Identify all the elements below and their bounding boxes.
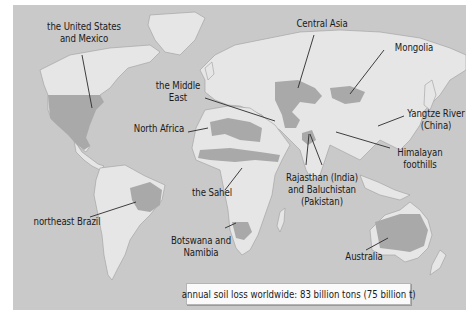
label-line: (China) (402, 119, 466, 131)
region-usa-mexico (48, 95, 104, 150)
label-line: Namibia (167, 246, 234, 258)
caption-box: annual soil loss worldwide: 83 billion t… (186, 283, 411, 305)
label-yangtze: Yangtze River (China) (402, 107, 466, 131)
label-line: Yangtze River (402, 107, 466, 119)
region-australia (375, 214, 428, 252)
label-line: and Mexico (45, 32, 124, 44)
label-line: North Africa (126, 122, 192, 134)
label-line: East (148, 91, 207, 103)
label-line: Mongolia (389, 41, 438, 53)
label-line: Australia (335, 250, 392, 262)
label-australia: Australia (335, 250, 392, 262)
label-line: northeast Brazil (28, 215, 107, 227)
greenland (148, 12, 205, 55)
label-line: Botswana and (167, 234, 234, 246)
label-line: the United States (45, 20, 124, 32)
label-middle-east: the Middle East (148, 79, 207, 103)
label-line: and Baluchistan (281, 183, 363, 195)
world-map: the United States and Mexico Central Asi… (13, 5, 466, 310)
label-line: Rajasthan (India) (281, 171, 363, 183)
label-ne-brazil: northeast Brazil (28, 215, 107, 227)
label-usa-mexico: the United States and Mexico (45, 20, 124, 44)
label-line: Himalayan (390, 146, 451, 158)
label-north-africa: North Africa (126, 122, 192, 134)
label-line: the Sahel (183, 186, 240, 198)
label-sahel: the Sahel (183, 186, 240, 198)
label-line: Central Asia (289, 17, 355, 29)
label-himalayan: Himalayan foothills (390, 146, 451, 170)
caption-text: annual soil loss worldwide: 83 billion t… (181, 288, 415, 300)
label-line: (Pakistan) (281, 195, 363, 207)
label-line: the Middle (148, 79, 207, 91)
label-rajasthan: Rajasthan (India) and Baluchistan (Pakis… (281, 171, 363, 207)
label-central-asia: Central Asia (289, 17, 355, 29)
label-botswana: Botswana and Namibia (167, 234, 234, 258)
madagascar (277, 208, 285, 232)
indonesia (360, 175, 410, 200)
label-mongolia: Mongolia (389, 41, 438, 53)
label-line: foothills (390, 158, 451, 170)
new-zealand (430, 250, 446, 275)
